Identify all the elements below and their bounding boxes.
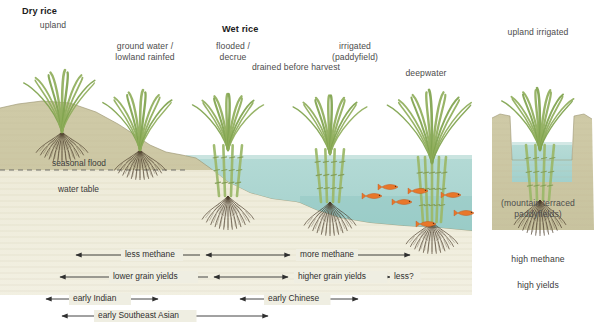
crop-label-irrigated: irrigated (paddyfield) [315,41,395,62]
note-high-methane: high methane [490,254,586,265]
crop-label-ground-water: ground water / lowland rainfed [95,41,195,62]
rice-ecosystems-diagram: Dry riceWet riceuplandground water / low… [0,0,602,336]
arrow-label-early-indian: early Indian [73,294,116,303]
arrow-label-more-methane: more methane [300,250,354,259]
crop-label-flooded-decrue: flooded / decrue [198,41,268,62]
arrow-label-early-southeast-asian: early Southeast Asian [98,311,179,320]
arrow-label-less-question: less? [394,272,414,281]
crop-label-upland: upland [18,20,88,31]
crop-label-drained: drained before harvest [236,62,356,73]
arrow-label-lower-grain-yields: lower grain yields [113,272,178,281]
arrow-label-less-methane: less methane [125,250,175,259]
heading-dry-rice: Dry rice [22,6,57,17]
soil-label-water-table: water table [58,184,99,194]
arrow-label-higher-grain-yields: higher grain yields [298,272,366,281]
crop-label-deepwater: deepwater [390,68,462,79]
crop-label-upland-irrigated: upland irrigated [490,27,586,38]
note-high-yields: high yields [490,280,586,291]
soil-label-seasonal-flood: seasonal flood [52,158,106,168]
crop-label-mountain-terraced: (mountain terraced paddyfields) [480,198,596,219]
arrow-label-early-chinese: early Chinese [268,294,319,303]
heading-wet-rice: Wet rice [222,24,258,35]
